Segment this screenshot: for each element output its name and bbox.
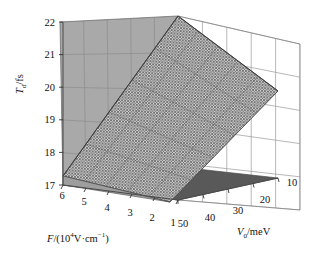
y-axis-title-symbol: T — [14, 88, 25, 94]
f-axis-title-unit-tail: V·cm — [74, 233, 98, 244]
figure-3d-surface-plot: 17 18 19 20 21 22 6 5 4 3 2 1 — [0, 0, 316, 266]
v0-tick-0: 50 — [178, 218, 189, 229]
y-tick-5: 22 — [45, 17, 56, 28]
y-axis-title-subscript: d — [20, 85, 28, 89]
v0-tick-1: 40 — [205, 212, 216, 223]
y-tick-4: 21 — [45, 49, 56, 60]
f-tick-5: 1 — [170, 217, 175, 228]
y-tick-0: 17 — [45, 180, 56, 191]
f-axis-title: F/(104V·cm−1) — [47, 231, 109, 244]
f-tick-4: 2 — [149, 212, 154, 223]
f-tick-3: 3 — [127, 207, 132, 218]
f-tick-0: 6 — [59, 190, 64, 201]
y-tick-1: 18 — [45, 147, 56, 158]
y-axis-title-unit: /fs — [14, 74, 25, 85]
v0-tick-2: 30 — [233, 205, 244, 216]
f-tick-1: 5 — [81, 196, 86, 207]
v0-axis-title: V0/meV — [237, 226, 270, 240]
v0-tick-4: 10 — [287, 177, 298, 188]
f-axis-title-close-paren: ) — [105, 233, 109, 244]
y-tick-3: 20 — [45, 82, 56, 93]
y-axis-title: Td/fs — [14, 74, 28, 94]
v0-tick-3: 20 — [260, 194, 271, 205]
v0-axis-title-unit: /meV — [247, 226, 270, 237]
f-tick-2: 4 — [104, 202, 110, 213]
f-axis-title-unit-open: /(10 — [53, 233, 70, 244]
y-tick-2: 19 — [45, 114, 56, 125]
